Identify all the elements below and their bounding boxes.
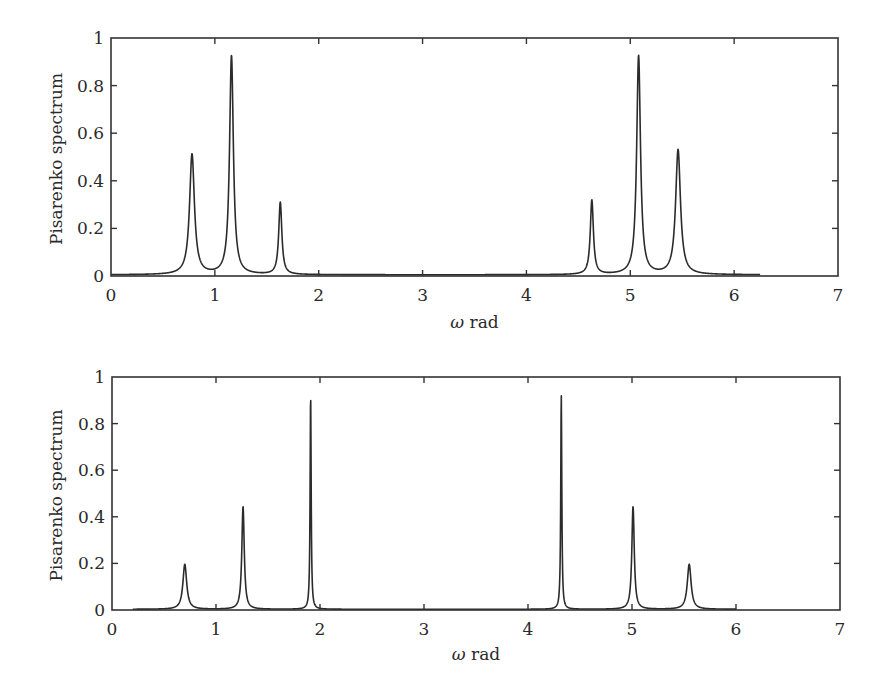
x-tick-label: 5 [625,285,636,305]
y-tick-label: 0.2 [78,553,105,573]
figure: 0123456700.20.40.60.81ω radPisarenko spe… [0,0,886,698]
x-tick-label: 5 [627,619,638,639]
y-axis-label: Pisarenko spectrum [46,409,66,581]
x-tick-label: 1 [211,619,222,639]
top-spectrum-plot: 0123456700.20.40.60.81ω radPisarenko spe… [46,28,843,332]
x-tick-label: 3 [419,619,430,639]
y-tick-label: 1 [93,28,104,48]
y-tick-label: 0.8 [77,76,104,96]
bottom-spectrum-plot: 0123456700.20.40.60.81ω radPisarenko spe… [46,367,845,664]
y-tick-label: 0.6 [77,123,104,143]
x-tick-label: 6 [729,285,740,305]
y-tick-label: 1 [94,367,105,387]
y-tick-label: 0.6 [78,460,105,480]
y-tick-label: 0.4 [78,507,105,527]
x-tick-label: 1 [209,285,220,305]
y-axis-label: Pisarenko spectrum [46,73,66,245]
plot-frame [112,377,840,610]
y-tick-label: 0 [94,600,105,620]
x-tick-label: 4 [523,619,534,639]
x-tick-label: 0 [106,285,117,305]
spectrum-curve [133,396,736,609]
y-tick-label: 0.2 [77,218,104,238]
x-tick-label: 7 [835,619,846,639]
x-tick-label: 4 [521,285,532,305]
x-tick-label: 2 [315,619,326,639]
y-tick-label: 0 [93,266,104,286]
x-tick-label: 2 [313,285,324,305]
plot-frame [111,38,838,276]
x-tick-label: 3 [417,285,428,305]
x-axis-label: ω rad [452,644,501,664]
x-axis-label: ω rad [450,312,499,332]
x-tick-label: 6 [731,619,742,639]
y-tick-label: 0.8 [78,414,105,434]
x-tick-label: 7 [833,285,844,305]
y-tick-label: 0.4 [77,171,104,191]
x-tick-label: 0 [107,619,118,639]
spectrum-curve [111,55,760,274]
